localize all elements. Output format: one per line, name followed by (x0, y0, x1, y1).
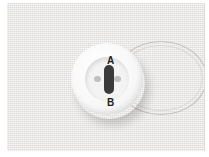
photo: A B (7, 3, 205, 151)
label-a: A (107, 55, 114, 66)
thread-shank (104, 65, 114, 94)
label-b: B (107, 97, 114, 108)
button-hole-left (94, 76, 101, 82)
button-hole-right (114, 76, 121, 82)
